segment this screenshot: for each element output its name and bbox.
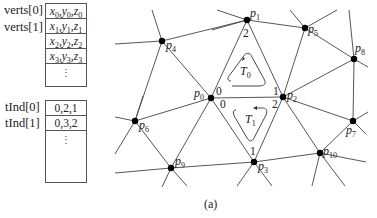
label-p8: p8	[354, 41, 365, 57]
label-p10: p10	[322, 144, 337, 160]
t0-corner-2: 2	[243, 27, 249, 39]
t1-corner-1: 1	[250, 145, 256, 157]
t1-arrowhead-icon	[253, 106, 257, 110]
t1-corner-2: 2	[272, 98, 278, 110]
label-t0: T0	[240, 64, 251, 80]
node-p4	[159, 38, 165, 44]
node-p2	[280, 94, 286, 100]
label-p3: p3	[257, 159, 268, 175]
label-t1: T1	[245, 112, 256, 128]
t1-corner-0: 0	[220, 98, 226, 110]
node-p6	[132, 118, 138, 124]
label-p6: p6	[138, 118, 149, 134]
t0-corner-0: 0	[216, 85, 222, 97]
triangle-mesh: p1 p5 p8 p4 p0 p2 p6 p7 p9 p3 p10 2 0 1 …	[0, 0, 377, 218]
node-p0	[208, 95, 214, 101]
label-p4: p4	[165, 38, 176, 54]
node-p3	[251, 159, 257, 165]
mesh-edges	[115, 10, 368, 187]
label-p9: p9	[174, 154, 185, 170]
label-p5: p5	[307, 22, 318, 38]
figure-caption: (a)	[204, 197, 217, 212]
label-p1: p1	[249, 6, 260, 22]
t0-corner-1: 1	[273, 85, 279, 97]
node-p8	[351, 56, 357, 62]
label-p7: p7	[345, 123, 356, 139]
node-p9	[168, 165, 174, 171]
